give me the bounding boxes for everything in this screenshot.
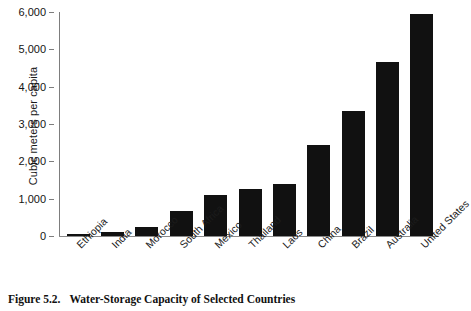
y-tick-mark (49, 87, 54, 88)
bar (376, 62, 399, 236)
y-tick-mark (49, 124, 54, 125)
figure-number: Figure 5.2. (8, 293, 61, 305)
y-tick-label: 1,000 (18, 193, 46, 205)
x-axis-category-labels: EthiopiaIndiaMoroccoSouth AfricaMexicoTh… (61, 236, 439, 296)
figure-caption-text: Water-Storage Capacity of Selected Count… (70, 293, 296, 305)
bar-series (61, 12, 439, 236)
plot-area: 01,0002,0003,0004,0005,0006,000 (61, 12, 439, 236)
y-tick-mark (49, 12, 54, 13)
y-tick-label: 6,000 (18, 6, 46, 18)
y-tick-mark (49, 161, 54, 162)
bar (342, 111, 365, 236)
y-tick-mark (49, 49, 54, 50)
y-tick-mark (49, 199, 54, 200)
y-tick-label: 4,000 (18, 81, 46, 93)
bar (410, 14, 433, 236)
y-tick-mark (49, 236, 54, 237)
y-tick-label: 5,000 (18, 43, 46, 55)
y-tick-label: 3,000 (18, 118, 46, 130)
y-tick-label: 0 (40, 230, 46, 242)
figure-caption: Figure 5.2.Water-Storage Capacity of Sel… (8, 293, 295, 305)
y-tick-label: 2,000 (18, 155, 46, 167)
y-axis-line (59, 12, 60, 237)
bar (307, 145, 330, 236)
